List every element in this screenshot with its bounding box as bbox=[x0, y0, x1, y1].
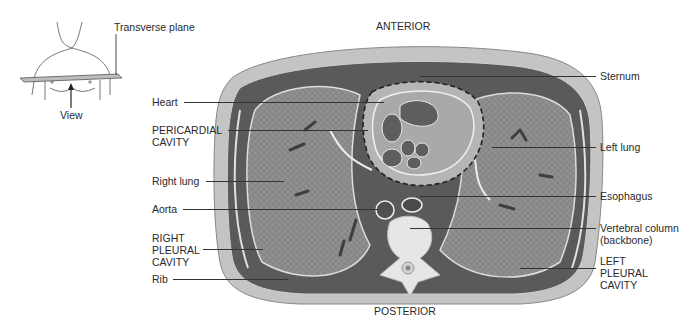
thoracic-cross-section bbox=[0, 0, 691, 330]
label-left-lung: Left lung bbox=[600, 141, 640, 153]
leader-rib bbox=[173, 279, 288, 280]
leader-aorta bbox=[183, 209, 378, 210]
view-label: View bbox=[60, 109, 83, 121]
label-left-pleural-cavity: LEFT PLEURAL CAVITY bbox=[600, 255, 648, 291]
leader-vertebral-column bbox=[410, 228, 596, 229]
leader-pericardial-cavity bbox=[228, 130, 368, 131]
label-right-lung: Right lung bbox=[152, 175, 199, 187]
posterior-label: POSTERIOR bbox=[374, 305, 436, 317]
label-sternum: Sternum bbox=[600, 70, 640, 82]
leader-left-lung bbox=[492, 147, 596, 148]
aorta-shape bbox=[376, 201, 394, 219]
label-rib: Rib bbox=[152, 273, 168, 285]
label-pericardial-cavity: PERICARDIAL CAVITY bbox=[152, 124, 222, 148]
label-aorta: Aorta bbox=[152, 203, 177, 215]
label-esophagus: Esophagus bbox=[600, 190, 653, 202]
leader-heart bbox=[184, 102, 384, 103]
leader-right-pleural-cavity bbox=[203, 249, 263, 250]
anterior-label: ANTERIOR bbox=[376, 20, 430, 32]
leader-left-pleural-cavity bbox=[520, 268, 596, 269]
label-vertebral-column: Vertebral column (backbone) bbox=[600, 222, 679, 246]
label-heart: Heart bbox=[152, 96, 178, 108]
label-right-pleural-cavity: RIGHT PLEURAL CAVITY bbox=[152, 232, 200, 268]
transverse-plane-label: Transverse plane bbox=[114, 21, 195, 33]
leader-right-lung bbox=[206, 181, 284, 182]
esophagus-shape bbox=[402, 198, 422, 212]
leader-sternum bbox=[420, 76, 596, 77]
leader-esophagus bbox=[420, 196, 596, 197]
